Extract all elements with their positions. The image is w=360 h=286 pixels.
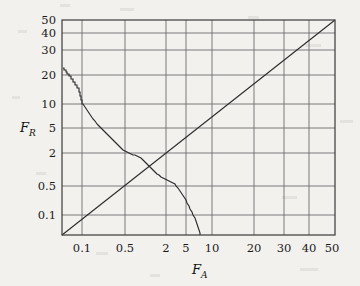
y-tick-label: 20: [41, 68, 56, 82]
x-tick-label: 2: [162, 241, 169, 255]
x-tick-label: 0.1: [73, 241, 91, 255]
y-tick-label: 5: [49, 121, 56, 135]
x-tick-label: 10: [205, 241, 220, 255]
y-tick-label: 10: [41, 97, 56, 111]
y-tick-label: 2: [49, 146, 56, 160]
y-tick-label: 30: [41, 43, 56, 57]
y-tick-label: 0.5: [38, 179, 56, 193]
x-tick-label: 0.5: [116, 241, 134, 255]
y-axis-title-subscript: R: [28, 128, 36, 138]
x-tick-label: 50: [325, 241, 340, 255]
y-tick-label: 0.1: [38, 208, 56, 222]
x-axis-title-subscript: A: [200, 270, 208, 280]
x-tick-label: 5: [182, 241, 189, 255]
y-tick-label: 50: [41, 13, 56, 27]
x-tick-label: 30: [277, 241, 292, 255]
x-tick-label: 20: [247, 241, 262, 255]
x-tick-label: 40: [302, 241, 317, 255]
chart-canvas: 50 40 30 20 10 5 2 0.5 0.1 0.1 0.5 2 5 1…: [0, 0, 360, 286]
det-curve-figure: 50 40 30 20 10 5 2 0.5 0.1 0.1 0.5 2 5 1…: [0, 0, 360, 286]
y-tick-label: 40: [41, 26, 56, 40]
